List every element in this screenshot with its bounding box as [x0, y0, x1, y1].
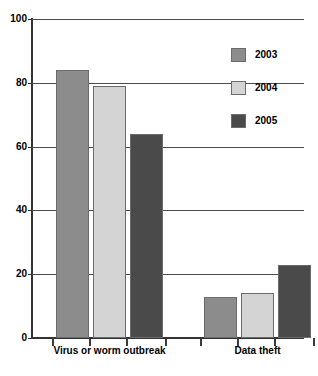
y-axis-tick-label: 0: [21, 333, 27, 343]
bar: [241, 293, 274, 338]
bar: [56, 70, 89, 338]
legend-item-label: 2004: [255, 83, 277, 93]
legend-swatch-icon: [231, 114, 246, 128]
x-axis-category-label: Data theft: [234, 345, 280, 356]
legend-item-label: 2005: [255, 116, 277, 126]
legend-item: 2003: [231, 48, 311, 62]
bar: [204, 297, 237, 338]
legend-swatch-icon: [231, 81, 246, 95]
bar: [93, 86, 126, 338]
y-axis-tick-label: 60: [16, 142, 27, 152]
y-axis-tick-label: 80: [16, 78, 27, 88]
bar: [278, 265, 311, 338]
legend-swatch-icon: [231, 48, 246, 62]
legend: 200320042005: [231, 48, 311, 147]
legend-item-label: 2003: [255, 50, 277, 60]
y-axis-tick-mark: [28, 338, 32, 339]
bar-chart: 020406080100 Virus or worm outbreakData …: [0, 0, 318, 376]
x-axis-category-label: Virus or worm outbreak: [53, 345, 165, 356]
y-axis-tick-label: 40: [16, 205, 27, 215]
y-axis-tick-label: 20: [16, 269, 27, 279]
x-axis-tick-mark: [200, 338, 202, 346]
legend-item: 2005: [231, 114, 311, 128]
x-axis-tick-mark: [313, 338, 315, 346]
legend-item: 2004: [231, 81, 311, 95]
bar: [130, 134, 163, 338]
y-axis-tick-label: 100: [10, 14, 27, 24]
